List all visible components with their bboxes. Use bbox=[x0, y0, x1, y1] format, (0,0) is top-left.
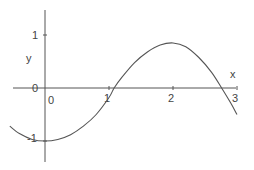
y-axis-label: y bbox=[26, 52, 32, 64]
x-tick-label-3: 3 bbox=[232, 92, 238, 104]
y-tick-label-1: 1 bbox=[32, 29, 38, 41]
x-axis-label: x bbox=[230, 68, 236, 80]
x-tick-label-0: 0 bbox=[48, 94, 54, 106]
x-tick-label-2: 2 bbox=[168, 92, 174, 104]
function-plot: 0 1 2 3 1 0 -1 x y bbox=[0, 0, 254, 170]
function-curve bbox=[10, 43, 237, 141]
y-tick-label-0: 0 bbox=[32, 82, 38, 94]
